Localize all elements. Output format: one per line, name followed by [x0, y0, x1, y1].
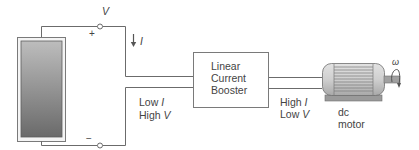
input-line2-var: V [164, 109, 171, 121]
current-arrow-icon [131, 34, 136, 47]
dc-motor-icon [323, 64, 401, 102]
motor-label-2: motor [338, 118, 365, 130]
output-line2-var: V [302, 108, 309, 120]
solar-panel-icon [18, 38, 66, 142]
wires [42, 27, 323, 146]
plus-sign: + [89, 28, 95, 40]
input-line2-text: High [139, 109, 164, 121]
voltage-label: V [102, 5, 109, 17]
booster-label-2: Current [211, 72, 246, 84]
current-label: I [140, 35, 143, 47]
minus-sign: − [86, 133, 92, 145]
booster-label-1: Linear [211, 60, 240, 72]
output-line2-text: Low [280, 108, 302, 120]
output-side-label-1: High I [280, 96, 307, 108]
input-line1-text: Low [139, 96, 161, 108]
output-line1-var: I [305, 96, 308, 108]
input-side-label-1: Low I [139, 96, 164, 108]
input-line1-var: I [161, 96, 164, 108]
motor-label-1: dc [338, 106, 349, 118]
positive-terminal-icon [98, 24, 103, 29]
booster-label-3: Booster [211, 84, 247, 96]
output-line1-text: High [280, 96, 305, 108]
negative-terminal-icon [98, 143, 103, 148]
input-side-label-2: High V [139, 109, 171, 121]
output-side-label-2: Low V [280, 108, 309, 120]
angular-speed-label: ω [392, 56, 399, 68]
